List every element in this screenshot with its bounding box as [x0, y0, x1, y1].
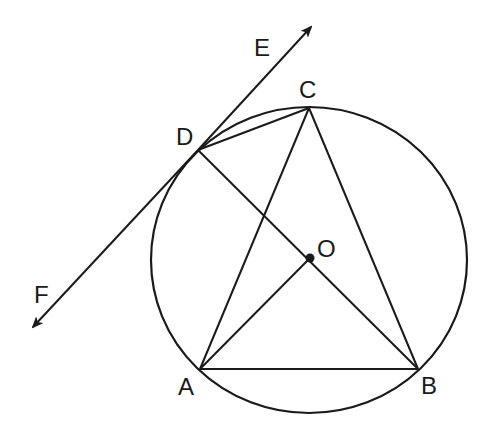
- label-d: D: [176, 123, 193, 150]
- segment-dc: [198, 108, 309, 150]
- label-b: B: [421, 372, 437, 399]
- tangent-line-df: [33, 150, 198, 327]
- segment-ac: [200, 108, 309, 369]
- label-f: F: [34, 281, 49, 308]
- center-point-o: [306, 254, 315, 263]
- label-e: E: [254, 34, 270, 61]
- segment-ao: [200, 258, 310, 369]
- label-o: O: [317, 235, 336, 262]
- label-a: A: [178, 373, 194, 400]
- geometry-diagram: A B C D O E F: [0, 0, 494, 438]
- label-c: C: [299, 76, 316, 103]
